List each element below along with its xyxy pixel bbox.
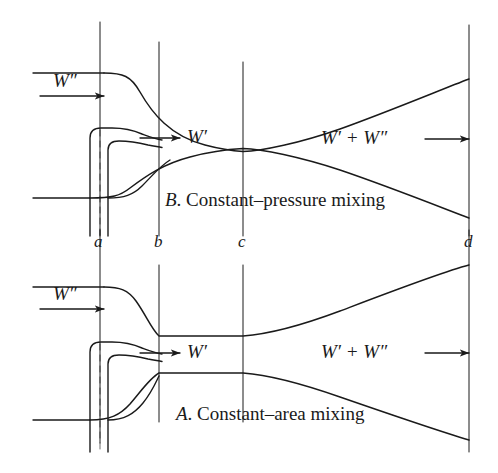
ejector-mixing-figure: a b c d W″ W′ W′ + W″ B. Constant–pressu… [0, 0, 498, 473]
primary-flow-label-a: W′ [187, 341, 207, 363]
primary-flow-label-b: W′ [187, 126, 207, 148]
station-label-b: b [154, 232, 163, 252]
primary-nozzle-upper-wall-b [90, 128, 162, 236]
station-label-d: d [464, 232, 473, 252]
caption-a-letter: A [176, 403, 188, 424]
caption-b-letter: B [165, 189, 177, 210]
secondary-stream-boundary-a [108, 376, 159, 420]
station-label-a: a [94, 232, 103, 252]
secondary-stream-boundary-b [108, 160, 170, 198]
caption-a-text: . Constant–area mixing [188, 403, 365, 424]
secondary-flow-label-b: W″ [53, 70, 77, 92]
secondary-flow-label-a: W″ [53, 283, 77, 305]
station-label-c: c [238, 232, 246, 252]
primary-nozzle-lower-wall-a [108, 355, 162, 452]
mixed-flow-label-a: W′ + W″ [321, 341, 387, 363]
primary-nozzle-upper-wall-a [90, 342, 162, 452]
mixed-flow-label-b: W′ + W″ [321, 127, 387, 149]
caption-b-text: . Constant–pressure mixing [177, 189, 385, 210]
caption-b: B. Constant–pressure mixing [165, 189, 385, 211]
primary-nozzle-lower-wall-b [108, 141, 162, 236]
caption-a: A. Constant–area mixing [176, 403, 364, 425]
